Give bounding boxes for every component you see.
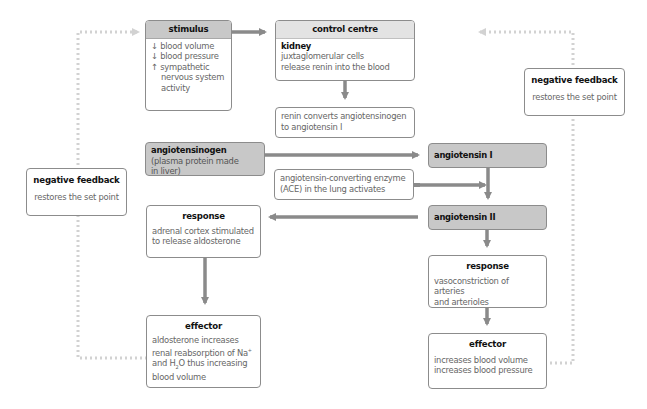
feedback-loop-left-bottom <box>78 215 146 358</box>
feedback-loop-left-top <box>78 32 138 165</box>
stimulus-item: ↓ blood volume <box>151 41 226 52</box>
response-left-box: response adrenal cortex stimulated to re… <box>146 205 261 258</box>
effector-left-box: effector aldosterone increases renal rea… <box>146 315 261 388</box>
control-centre-box: control centre kidney juxtaglomerular ce… <box>275 20 415 81</box>
feedback-loop-right-bottom <box>546 119 573 363</box>
up-arrow-icon: ↑ <box>151 62 158 72</box>
ace-step-box: angiotensin-converting enzyme (ACE) in t… <box>274 169 414 200</box>
angiotensin-2-box: angiotensin II <box>428 205 547 230</box>
stimulus-item: ↑ sympathetic <box>151 62 226 73</box>
renin-step-box: renin converts angiotensinogen to angiot… <box>275 107 415 138</box>
negative-feedback-left-box: negative feedback restores the set point <box>26 168 127 216</box>
stimulus-title: stimulus <box>146 21 231 39</box>
down-arrow-icon: ↓ <box>151 51 158 61</box>
negative-feedback-right-box: negative feedback restores the set point <box>524 68 625 116</box>
stimulus-item: ↓ blood pressure <box>151 51 226 62</box>
response-right-box: response vasoconstriction of arteries an… <box>428 255 547 308</box>
effector-right-box: effector increases blood volume increase… <box>428 333 547 389</box>
down-arrow-icon: ↓ <box>151 41 158 51</box>
angiotensinogen-box: angiotensinogen (plasma protein made in … <box>145 142 265 176</box>
organ-label: kidney <box>281 41 409 52</box>
stimulus-box: stimulus ↓ blood volume ↓ blood pressure… <box>145 20 232 111</box>
angiotensin-1-box: angiotensin I <box>428 143 547 168</box>
control-centre-title: control centre <box>276 21 414 39</box>
